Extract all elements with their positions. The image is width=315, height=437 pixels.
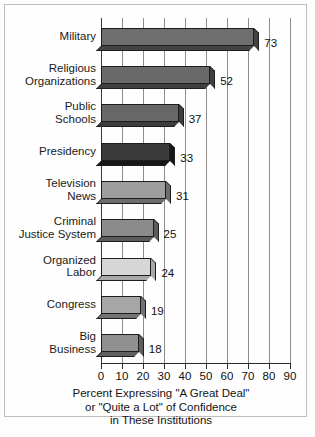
bar-front-face	[101, 296, 141, 314]
category-label-5: Criminal Justice System	[8, 215, 96, 240]
bar-side-face	[139, 334, 144, 357]
bar-value-label: 33	[180, 153, 193, 165]
bar-side-face	[210, 66, 215, 89]
gridline-80	[269, 18, 270, 363]
x-tick-label-30: 30	[158, 371, 171, 383]
bar-bottom-face	[96, 84, 210, 89]
x-tick-90	[290, 363, 291, 369]
bar-bottom-face	[96, 199, 166, 204]
gridline-90	[290, 18, 291, 363]
bar-side-face	[141, 296, 146, 319]
x-tick-label-50: 50	[200, 371, 213, 383]
x-axis-caption: Percent Expressing "A Great Deal" or "Qu…	[25, 387, 297, 428]
bar-side-face	[154, 219, 159, 242]
bar-value-label: 25	[164, 229, 177, 241]
category-label-1: Religious Organizations	[8, 62, 96, 87]
bar-value-label: 52	[220, 76, 233, 88]
caption-line-3: in These Institutions	[25, 414, 297, 428]
bar-value-label: 73	[264, 38, 277, 50]
bar-side-face	[254, 28, 259, 51]
bar-bottom-face	[96, 161, 170, 166]
plot-area: 735237333125241918	[101, 18, 290, 363]
bar-value-label: 24	[161, 268, 174, 280]
caption-line-2: or "Quite a Lot" of Confidence	[25, 401, 297, 415]
bar-front-face	[101, 104, 179, 122]
category-label-0: Military	[8, 30, 96, 43]
x-tick-50	[206, 363, 207, 369]
x-tick-label-60: 60	[221, 371, 234, 383]
bar-side-face	[170, 143, 175, 166]
bar-bottom-face	[96, 237, 154, 242]
x-tick-label-90: 90	[284, 371, 297, 383]
category-label-8: Big Business	[8, 330, 96, 355]
category-axis-labels: MilitaryReligious OrganizationsPublic Sc…	[5, 18, 96, 363]
chart-page: MilitaryReligious OrganizationsPublic Sc…	[0, 0, 315, 437]
bar-value-label: 31	[176, 191, 189, 203]
x-tick-label-40: 40	[179, 371, 192, 383]
caption-line-1: Percent Expressing "A Great Deal"	[25, 387, 297, 401]
x-tick-30	[164, 363, 165, 369]
x-tick-80	[269, 363, 270, 369]
bar-value-label: 19	[151, 306, 164, 318]
bar-bottom-face	[96, 46, 254, 51]
category-label-3: Presidency	[8, 145, 96, 158]
bar-bottom-face	[96, 314, 141, 319]
gridline-70	[248, 18, 249, 363]
x-tick-60	[227, 363, 228, 369]
bar-front-face	[101, 28, 254, 46]
bar-front-face	[101, 334, 139, 352]
x-tick-10	[122, 363, 123, 369]
gridline-60	[227, 18, 228, 363]
bar-bottom-face	[96, 276, 151, 281]
chart-frame: MilitaryReligious OrganizationsPublic Sc…	[4, 4, 307, 417]
x-tick-40	[185, 363, 186, 369]
bar-front-face	[101, 66, 210, 84]
bar-front-face	[101, 181, 166, 199]
x-tick-label-80: 80	[263, 371, 276, 383]
x-tick-20	[143, 363, 144, 369]
bar-front-face	[101, 143, 170, 161]
x-axis-line	[101, 363, 290, 364]
x-tick-70	[248, 363, 249, 369]
category-label-2: Public Schools	[8, 100, 96, 125]
x-tick-label-20: 20	[137, 371, 150, 383]
bar-front-face	[101, 219, 154, 237]
category-label-4: Television News	[8, 177, 96, 202]
x-tick-0	[101, 363, 102, 369]
bar-side-face	[179, 104, 184, 127]
bar-side-face	[151, 258, 156, 281]
x-tick-label-10: 10	[116, 371, 129, 383]
x-tick-label-0: 0	[98, 371, 104, 383]
bar-bottom-face	[96, 352, 139, 357]
bar-bottom-face	[96, 122, 179, 127]
bar-value-label: 37	[189, 114, 202, 126]
bar-side-face	[166, 181, 171, 204]
category-label-6: Organized Labor	[8, 254, 96, 279]
bar-value-label: 18	[149, 344, 162, 356]
bar-front-face	[101, 258, 151, 276]
x-tick-label-70: 70	[242, 371, 255, 383]
category-label-7: Congress	[8, 298, 96, 311]
